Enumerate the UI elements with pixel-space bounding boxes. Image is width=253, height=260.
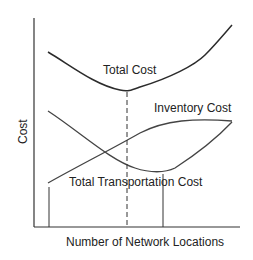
total-cost-label: Total Cost — [103, 63, 157, 77]
y-axis-label: Cost — [16, 119, 30, 144]
inventory-cost-label: Inventory Cost — [154, 101, 232, 115]
transportation-cost-label: Total Transportation Cost — [69, 175, 203, 189]
inventory-cost-curve — [48, 120, 232, 183]
x-axis-label: Number of Network Locations — [66, 235, 224, 249]
cost-tradeoff-chart: Total Cost Inventory Cost Total Transpor… — [0, 0, 253, 260]
total-cost-curve — [48, 25, 232, 91]
